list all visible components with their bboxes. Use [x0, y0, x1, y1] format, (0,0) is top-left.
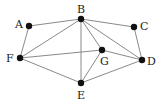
edge-E-D [81, 60, 142, 83]
node-label-G: G [100, 55, 109, 68]
edge-B-C [81, 19, 134, 27]
edge-B-G [81, 19, 102, 50]
node-label-A: A [14, 18, 24, 31]
node-label-D: D [147, 55, 156, 68]
node-D [139, 57, 145, 63]
node-label-B: B [77, 3, 85, 16]
edge-F-G [20, 50, 102, 58]
node-B [78, 16, 84, 22]
node-label-E: E [77, 89, 85, 102]
node-label-F: F [6, 52, 14, 65]
node-F [17, 55, 23, 61]
node-G [99, 47, 105, 53]
node-C [131, 24, 137, 30]
edge-A-B [29, 19, 81, 26]
node-A [26, 23, 32, 29]
node-E [78, 80, 84, 86]
edge-F-E [20, 58, 81, 83]
edge-G-E [81, 50, 102, 83]
graph-edges [20, 19, 142, 83]
node-label-C: C [140, 20, 148, 33]
graph-diagram: ABCDEFG [0, 0, 164, 105]
